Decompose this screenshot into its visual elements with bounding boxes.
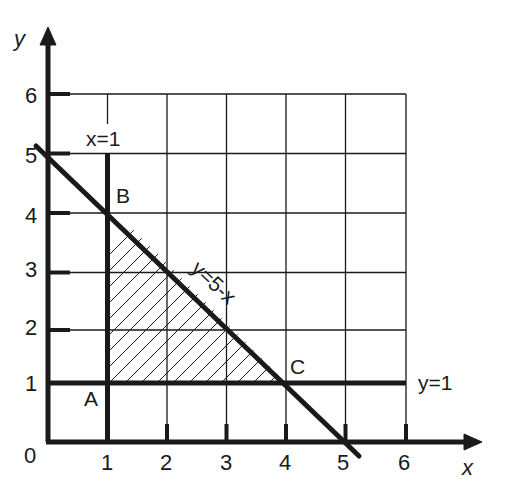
x-tick-label: 6: [398, 450, 410, 475]
y-tick-label: 2: [25, 315, 37, 340]
x-axis-label: x: [461, 455, 474, 480]
y-tick-label: 6: [25, 83, 37, 108]
x-tick-label: 4: [279, 450, 291, 475]
point-label-a: A: [84, 387, 98, 410]
x-axis-arrow-icon: [464, 434, 482, 450]
y-axis-label: y: [12, 26, 27, 51]
shaded-region: [0, 210, 474, 400]
point-label-c: C: [290, 355, 305, 378]
label-x-equals-1: x=1: [86, 127, 120, 150]
y-axis-arrow-icon: [40, 27, 56, 45]
y-tick-label: 5: [25, 143, 37, 168]
origin-label: 0: [24, 443, 36, 468]
label-y-equals-1: y=1: [418, 371, 452, 394]
diagram-canvas: y x 0 1 2 3 4 5 6 1 2 3 4 5 6 x=1 y=1 y=…: [0, 0, 505, 493]
y-tick-label: 4: [25, 203, 37, 228]
y-tick-label: 1: [25, 371, 37, 396]
y-tick-label: 3: [25, 257, 37, 282]
x-tick-label: 3: [220, 450, 232, 475]
x-tick-label: 1: [101, 450, 113, 475]
x-tick-label: 5: [337, 450, 349, 475]
x-tick-label: 2: [160, 450, 172, 475]
point-label-b: B: [116, 184, 130, 207]
